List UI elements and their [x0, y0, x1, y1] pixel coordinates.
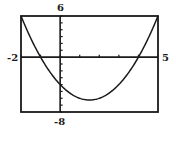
y-max-label: 6 [57, 3, 64, 13]
window-frame [21, 16, 158, 112]
x-max-label: 5 [162, 53, 169, 63]
parabola-curve [21, 16, 158, 100]
x-min-label: -2 [7, 53, 18, 63]
y-min-label: -8 [54, 117, 65, 127]
graph-plot [0, 0, 176, 144]
